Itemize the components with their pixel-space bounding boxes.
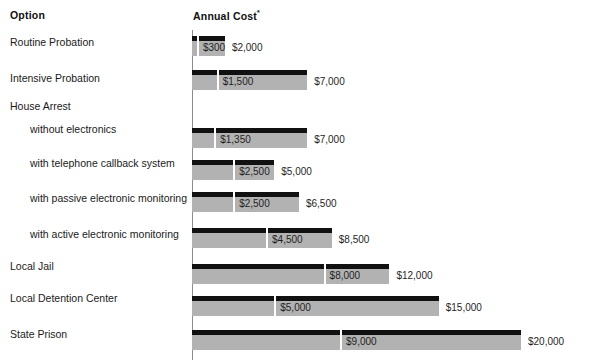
high-value-label: $5,000 xyxy=(281,166,312,177)
low-value-label: $8,000 xyxy=(330,270,361,281)
high-value-label: $2,000 xyxy=(232,42,263,53)
row-label: with passive electronic monitoring xyxy=(30,192,187,204)
low-value-divider xyxy=(266,228,268,248)
high-value-label: $7,000 xyxy=(314,76,345,87)
low-value-divider xyxy=(214,128,216,148)
column-header-option: Option xyxy=(10,9,45,21)
low-value-label: $9,000 xyxy=(346,336,377,347)
high-value-label: $8,500 xyxy=(339,234,370,245)
row-label: with active electronic monitoring xyxy=(30,228,179,240)
low-value-divider xyxy=(233,192,235,212)
row-label: Local Detention Center xyxy=(10,292,117,304)
row-label: with telephone callback system xyxy=(30,157,175,169)
low-estimate-bar xyxy=(192,233,332,248)
footnote-marker-icon: * xyxy=(257,9,260,16)
low-value-divider xyxy=(274,296,276,316)
low-value-label: $5,000 xyxy=(280,302,311,313)
high-value-label: $15,000 xyxy=(446,302,482,313)
row-label: without electronics xyxy=(30,123,116,135)
high-value-label: $6,500 xyxy=(306,198,337,209)
bar-pair xyxy=(192,296,439,316)
column-header-annual-cost-text: Annual Cost xyxy=(193,10,257,22)
low-value-divider xyxy=(233,160,235,180)
low-value-label: $2,500 xyxy=(239,198,270,209)
low-estimate-bar xyxy=(192,301,439,316)
low-value-divider xyxy=(340,330,342,350)
high-value-label: $12,000 xyxy=(396,270,432,281)
row-label: Routine Probation xyxy=(10,36,94,48)
row-label: Local Jail xyxy=(10,260,54,272)
column-header-annual-cost: Annual Cost* xyxy=(193,9,260,22)
low-value-divider xyxy=(197,36,199,56)
low-value-label: $300 xyxy=(203,42,225,53)
row-label: State Prison xyxy=(10,328,67,340)
row-label: Intensive Probation xyxy=(10,72,100,84)
bar-pair xyxy=(192,228,332,248)
low-value-label: $1,500 xyxy=(223,76,254,87)
high-value-label: $7,000 xyxy=(314,134,345,145)
high-value-label: $20,000 xyxy=(528,336,564,347)
row-label: House Arrest xyxy=(10,100,71,112)
low-value-divider xyxy=(324,264,326,284)
low-value-label: $2,500 xyxy=(239,166,270,177)
low-value-label: $1,350 xyxy=(220,134,251,145)
low-value-label: $4,500 xyxy=(272,234,303,245)
low-value-divider xyxy=(217,70,219,90)
annual-cost-chart: Option Annual Cost* Routine Probation$30… xyxy=(0,0,601,364)
